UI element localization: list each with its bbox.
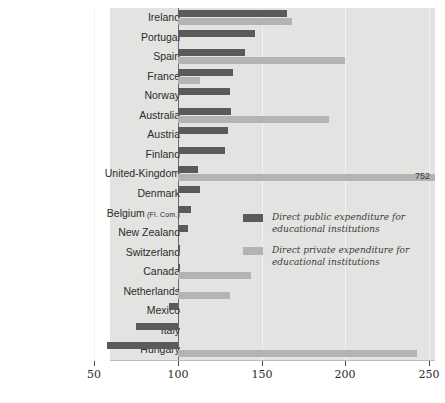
chart-legend: Direct public expenditure for educationa… — [243, 212, 413, 278]
category-label: Austria — [10, 125, 180, 145]
category-label: New Zealand — [10, 223, 180, 243]
category-label: United-Kingdom — [10, 164, 180, 184]
bar-public-australia — [178, 108, 232, 115]
table-row: Italy — [0, 321, 445, 341]
bar-public-denmark — [178, 186, 200, 193]
bar-public-ireland — [178, 10, 287, 17]
category-label: Canada — [10, 262, 180, 282]
expenditure-bar-chart: IrelandPortugalSpainFranceNorwayAustrali… — [0, 0, 445, 403]
legend-label-private-line2: educational institutions — [272, 257, 380, 267]
category-label-text: Spain — [153, 50, 180, 62]
table-row: France — [0, 67, 445, 87]
table-row: Mexico — [0, 301, 445, 321]
bar-private-canada — [178, 272, 252, 279]
legend-label-private-line1: Direct private expenditure for — [272, 245, 409, 255]
bar-public-hungary — [107, 342, 177, 349]
bar-public-austria — [178, 127, 228, 134]
category-label-text: Ireland — [148, 11, 180, 23]
table-row: Netherlands — [0, 282, 445, 302]
legend-label-public-line2: educational institutions — [272, 224, 380, 234]
x-tick-100 — [178, 361, 179, 366]
category-label: Finland — [10, 145, 180, 165]
x-tick-label-150: 150 — [252, 368, 273, 381]
category-label: Australia — [10, 106, 180, 126]
bar-public-switzerland — [178, 245, 180, 252]
category-label: Norway — [10, 86, 180, 106]
category-label: Netherlands — [10, 282, 180, 302]
bar-public-belgium-fl-com — [178, 206, 191, 213]
category-label: France — [10, 67, 180, 87]
bar-public-portugal — [178, 30, 255, 37]
bar-private-hungary — [178, 350, 418, 357]
category-label-text: Denmark — [137, 187, 180, 199]
x-tick-200 — [345, 361, 346, 366]
category-label: Mexico — [10, 301, 180, 321]
legend-label-public: Direct public expenditure for educationa… — [272, 212, 413, 235]
x-tick-label-250: 250 — [419, 368, 440, 381]
x-tick-label-200: 200 — [335, 368, 356, 381]
legend-swatch-private — [243, 247, 263, 255]
legend-item-public: Direct public expenditure for educationa… — [243, 212, 413, 236]
category-label-text: Canada — [143, 265, 180, 277]
bar-private-spain — [178, 57, 346, 64]
legend-swatch-public — [243, 214, 263, 222]
category-label: Spain — [10, 47, 180, 67]
category-label-text: Netherlands — [123, 285, 180, 297]
bar-public-united-kingdom — [178, 166, 198, 173]
table-row: Hungary — [0, 340, 445, 360]
x-tick-label-100: 100 — [168, 368, 189, 381]
category-label-text: Norway — [144, 89, 180, 101]
category-label-text: Portugal — [141, 31, 180, 43]
category-label-sublabel: (Fl. Com.) — [145, 211, 180, 218]
bar-public-france — [178, 69, 233, 76]
category-label-text: New Zealand — [118, 226, 180, 238]
category-label-text: Belgium — [107, 207, 145, 219]
category-label: Portugal — [10, 28, 180, 48]
bar-value-annotation: 752 — [415, 172, 430, 181]
table-row: Ireland — [0, 8, 445, 28]
legend-label-public-line1: Direct public expenditure for — [272, 212, 405, 222]
bar-public-norway — [178, 88, 230, 95]
table-row: Norway — [0, 86, 445, 106]
x-tick-150 — [262, 361, 263, 366]
table-row: Spain — [0, 47, 445, 67]
category-label: Belgium (Fl. Com.) — [10, 204, 180, 225]
category-label-text: Finland — [146, 148, 180, 160]
bar-public-italy — [136, 323, 178, 330]
bar-public-canada — [178, 264, 180, 271]
legend-item-private: Direct private expenditure for education… — [243, 245, 413, 269]
x-tick-50 — [94, 361, 95, 366]
bar-public-new-zealand — [178, 225, 188, 232]
table-row: Australia — [0, 106, 445, 126]
category-label-text: United-Kingdom — [105, 167, 180, 179]
x-tick-label-50: 50 — [87, 368, 101, 381]
bar-private-france — [178, 77, 200, 84]
bar-public-finland — [178, 147, 225, 154]
bar-private-united-kingdom — [178, 174, 435, 181]
bar-private-australia — [178, 116, 329, 123]
category-label-text: Australia — [139, 109, 180, 121]
category-label-text: Austria — [147, 128, 180, 140]
category-label: Ireland — [10, 8, 180, 28]
category-label: Denmark — [10, 184, 180, 204]
table-row: Portugal — [0, 28, 445, 48]
table-row: United-Kingdom752 — [0, 164, 445, 184]
x-tick-250 — [429, 361, 430, 366]
bar-public-mexico — [169, 303, 177, 310]
bar-rows: IrelandPortugalSpainFranceNorwayAustrali… — [0, 8, 445, 360]
category-label: Switzerland — [10, 243, 180, 263]
table-row: Denmark — [0, 184, 445, 204]
x-axis-line — [110, 360, 435, 361]
table-row: Austria — [0, 125, 445, 145]
bar-private-ireland — [178, 18, 292, 25]
category-label-text: France — [147, 70, 180, 82]
bar-private-netherlands — [178, 292, 230, 299]
bar-public-spain — [178, 49, 245, 56]
category-label-text: Switzerland — [126, 246, 180, 258]
legend-label-private: Direct private expenditure for education… — [272, 245, 413, 268]
table-row: Finland — [0, 145, 445, 165]
